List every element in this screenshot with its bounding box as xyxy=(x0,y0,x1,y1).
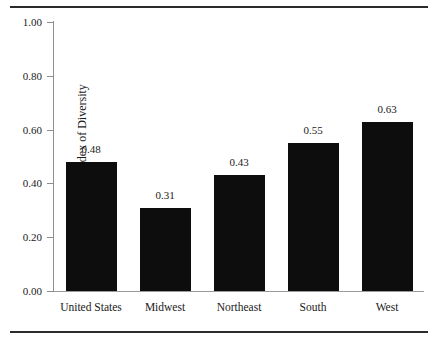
y-axis-tick xyxy=(47,291,54,292)
y-axis-tick-label: 0.20 xyxy=(0,232,42,243)
x-axis-line xyxy=(53,291,424,292)
bar-item[interactable]: 0.43 xyxy=(214,22,265,291)
bar-value-label: 0.31 xyxy=(155,190,174,201)
y-axis-tick-label: 1.00 xyxy=(0,17,42,28)
y-axis-tick xyxy=(47,130,54,131)
bar-item[interactable]: 0.48 xyxy=(66,22,117,291)
figure-bottom-rule xyxy=(10,331,428,333)
y-axis-tick xyxy=(47,237,54,238)
plot-area: Racial Index of Diversity 0.480.310.430.… xyxy=(54,22,424,291)
bar-rect[interactable] xyxy=(288,143,339,291)
y-axis-tick-label: 0.60 xyxy=(0,125,42,136)
x-axis-category-label: United States xyxy=(60,301,122,313)
y-axis-tick-label: 0.00 xyxy=(0,286,42,297)
y-axis-tick xyxy=(47,22,54,23)
bar-rect[interactable] xyxy=(140,208,191,291)
bar-rect[interactable] xyxy=(66,162,117,291)
bar-rect[interactable] xyxy=(214,175,265,291)
figure-container: Racial Index of Diversity 0.480.310.430.… xyxy=(0,0,434,341)
y-axis-tick-label: 0.80 xyxy=(0,71,42,82)
bar-value-label: 0.63 xyxy=(377,104,396,115)
x-axis-category-label: Northeast xyxy=(217,301,262,313)
bar-value-label: 0.55 xyxy=(303,125,322,136)
bar-item[interactable]: 0.55 xyxy=(288,22,339,291)
x-axis-category-label: West xyxy=(376,301,399,313)
x-axis-category-label: South xyxy=(300,301,327,313)
x-axis-category-label: Midwest xyxy=(145,301,185,313)
y-axis-tick xyxy=(47,76,54,77)
figure-top-rule xyxy=(10,6,428,8)
bar-value-label: 0.43 xyxy=(229,157,248,168)
bar-item[interactable]: 0.31 xyxy=(140,22,191,291)
y-axis-tick xyxy=(47,183,54,184)
bar-rect[interactable] xyxy=(362,122,413,291)
bar-value-label: 0.48 xyxy=(81,144,100,155)
y-axis-tick-label: 0.40 xyxy=(0,178,42,189)
bar-item[interactable]: 0.63 xyxy=(362,22,413,291)
